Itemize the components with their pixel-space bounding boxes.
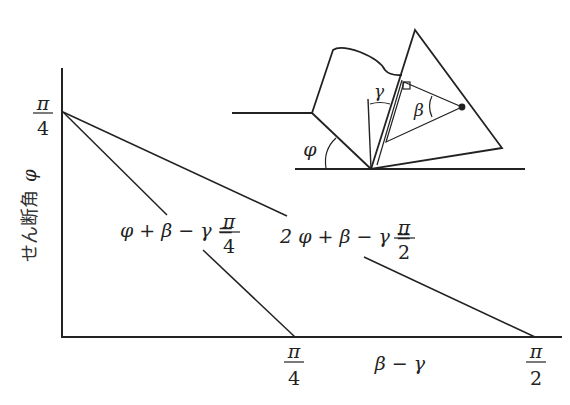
shear-angle-diagram: π 4 せん断角 φ π 4 π 2 β − γ φ + β − γ = π 4… bbox=[0, 0, 570, 405]
equation-1-label: φ + β − γ = π 4 bbox=[120, 210, 240, 257]
x-axis-label: β − γ bbox=[374, 352, 426, 374]
svg-text:φ + β − γ =: φ + β − γ = bbox=[120, 219, 234, 241]
svg-text:π: π bbox=[36, 92, 50, 114]
arrow-tip bbox=[460, 105, 465, 110]
svg-text:φ: φ bbox=[19, 169, 40, 182]
svg-text:せん断角: せん断角 bbox=[19, 190, 40, 262]
svg-text:π: π bbox=[222, 210, 236, 232]
gamma-label: γ bbox=[374, 81, 385, 101]
svg-text:4: 4 bbox=[223, 235, 235, 257]
svg-text:4: 4 bbox=[288, 367, 300, 389]
svg-text:2: 2 bbox=[530, 367, 542, 389]
shear-plane bbox=[312, 113, 371, 169]
svg-text:2 φ + β − γ =: 2 φ + β − γ = bbox=[279, 225, 412, 247]
beta-label: β bbox=[413, 100, 424, 120]
phi-label: φ bbox=[303, 138, 317, 160]
x-tick-pi-over-4: π 4 bbox=[284, 340, 304, 389]
x-tick-pi-over-2: π 2 bbox=[526, 340, 546, 389]
y-axis-label: せん断角 φ bbox=[19, 169, 40, 262]
svg-text:2: 2 bbox=[398, 241, 410, 263]
y-tick-pi-over-4: π 4 bbox=[33, 92, 53, 139]
equation-2-label: 2 φ + β − γ = π 2 bbox=[279, 216, 415, 263]
axes bbox=[61, 68, 562, 337]
svg-text:π: π bbox=[287, 340, 301, 362]
svg-text:4: 4 bbox=[37, 117, 49, 139]
svg-text:π: π bbox=[397, 216, 411, 238]
tool bbox=[371, 30, 502, 169]
svg-text:π: π bbox=[529, 340, 543, 362]
